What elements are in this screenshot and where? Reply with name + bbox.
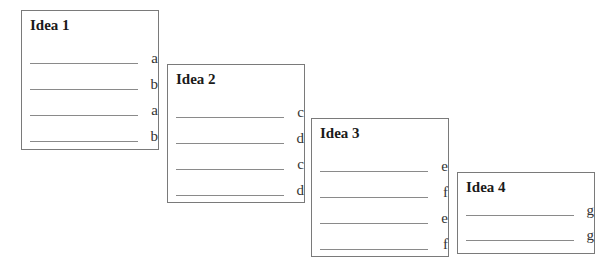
- rhyme-letter: d: [290, 182, 304, 198]
- blank-row: d: [176, 180, 300, 200]
- blank-row: f: [320, 234, 444, 254]
- blank-line[interactable]: [176, 169, 284, 170]
- rhyme-letter: c: [290, 104, 304, 120]
- blank-row: e: [320, 156, 444, 176]
- rhyme-letter: d: [290, 130, 304, 146]
- rhyme-letter: g: [580, 202, 594, 218]
- blank-line[interactable]: [466, 215, 574, 216]
- blank-line[interactable]: [320, 249, 428, 250]
- blank-line[interactable]: [30, 63, 138, 64]
- rhyme-letter: f: [434, 236, 448, 252]
- rhyme-letter: a: [144, 102, 158, 118]
- blank-line[interactable]: [320, 171, 428, 172]
- idea-title: Idea 3: [320, 124, 360, 142]
- blank-row: b: [30, 74, 154, 94]
- blank-row: g: [466, 225, 590, 245]
- blank-row: c: [176, 102, 300, 122]
- blank-row: a: [30, 100, 154, 120]
- blank-row: d: [176, 128, 300, 148]
- blank-row: a: [30, 48, 154, 68]
- blank-line[interactable]: [176, 143, 284, 144]
- rhyme-letter: e: [434, 158, 448, 174]
- blank-row: f: [320, 182, 444, 202]
- blank-row: b: [30, 126, 154, 146]
- idea-box-3: Idea 3 e f e f: [311, 118, 449, 257]
- idea-box-2: Idea 2 c d c d: [167, 64, 305, 203]
- blank-line[interactable]: [30, 89, 138, 90]
- blank-line[interactable]: [176, 195, 284, 196]
- rhyme-letter: f: [434, 184, 448, 200]
- blank-row: c: [176, 154, 300, 174]
- idea-title: Idea 4: [466, 178, 506, 196]
- rhyme-letter: a: [144, 50, 158, 66]
- rhyme-letter: g: [580, 227, 594, 243]
- blank-line[interactable]: [30, 141, 138, 142]
- blank-line[interactable]: [176, 117, 284, 118]
- idea-title: Idea 1: [30, 16, 70, 34]
- idea-box-4: Idea 4 g g: [457, 172, 595, 254]
- rhyme-letter: b: [144, 76, 158, 92]
- blank-line[interactable]: [320, 223, 428, 224]
- blank-row: e: [320, 208, 444, 228]
- blank-line[interactable]: [30, 115, 138, 116]
- rhyme-letter: c: [290, 156, 304, 172]
- blank-line[interactable]: [466, 240, 574, 241]
- blank-line[interactable]: [320, 197, 428, 198]
- rhyme-letter: e: [434, 210, 448, 226]
- blank-row: g: [466, 200, 590, 220]
- rhyme-letter: b: [144, 128, 158, 144]
- idea-title: Idea 2: [176, 70, 216, 88]
- idea-box-1: Idea 1 a b a b: [21, 10, 159, 150]
